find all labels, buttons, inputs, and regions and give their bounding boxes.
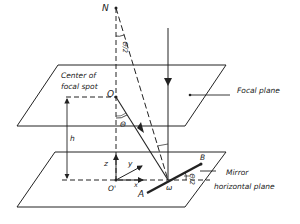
- angle-arc-top: [116, 35, 124, 36]
- label-center-line1: Center of: [61, 72, 96, 80]
- angle-arc-theta-2: [116, 113, 126, 116]
- point-N: [115, 7, 118, 10]
- incident-ray-arrow-icon: [164, 78, 172, 86]
- label-x: x: [134, 182, 138, 189]
- focal-plane: [17, 65, 226, 126]
- label-O-prime: O': [108, 185, 116, 193]
- label-A: A: [138, 190, 144, 199]
- label-focal-plane: Focal plane: [237, 87, 280, 95]
- label-theta-half-top: Θ/2: [121, 42, 128, 53]
- y-axis: [116, 166, 142, 180]
- label-z: z: [104, 160, 108, 168]
- label-horizontal-plane: horizontal plane: [214, 183, 275, 191]
- label-O: O: [107, 90, 114, 99]
- label-mirror: Mirror: [226, 169, 248, 177]
- label-omega: ω: [166, 184, 172, 192]
- normal-dashed-line: [116, 8, 168, 180]
- label-center-line2: focal spot: [61, 83, 98, 91]
- angle-marks-mirror: [157, 144, 168, 146]
- label-y: y: [128, 160, 132, 168]
- label-h: h: [70, 135, 75, 143]
- label-theta: Θ: [120, 121, 126, 129]
- label-N: N: [102, 4, 109, 13]
- label-theta-half-mirror: Θ/2: [188, 174, 195, 185]
- point-B: [200, 163, 203, 166]
- focal-plane-leader-dot: [189, 94, 192, 97]
- reflected-ray: [116, 97, 168, 180]
- label-B: B: [200, 154, 205, 162]
